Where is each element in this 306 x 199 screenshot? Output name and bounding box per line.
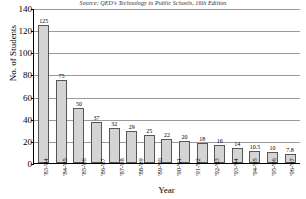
bar-value-label: 29 (129, 124, 135, 130)
bar[interactable] (126, 131, 137, 163)
y-axis-tick-label: 40 (6, 115, 32, 124)
bar-value-label: 10.5 (250, 144, 261, 150)
bar-value-label: 18 (199, 136, 205, 142)
source-note: Source: QED's Technology in Public Schoo… (0, 0, 306, 7)
bar-slot: 14 (229, 9, 247, 163)
bar-slot: 37 (88, 9, 106, 163)
y-axis-tick-label: 20 (6, 137, 32, 146)
bar-value-label: 125 (39, 18, 48, 24)
bar-value-label: 32 (111, 121, 117, 127)
y-axis-tick-label: 120 (6, 27, 32, 36)
bar-slot: 20 (176, 9, 194, 163)
bar-slot: 16 (211, 9, 229, 163)
bar-chart: Source: QED's Technology in Public Schoo… (0, 0, 306, 199)
x-axis-tick-label: '84-'85 (62, 158, 69, 176)
bar-slot: 50 (70, 9, 88, 163)
x-axis-tick-label: '83-'84 (43, 158, 50, 176)
bar-value-label: 37 (94, 115, 100, 121)
bar[interactable] (38, 25, 49, 163)
bar-slot: 29 (123, 9, 141, 163)
x-axis-tick-label: '85-'86 (81, 158, 88, 176)
bar[interactable] (73, 108, 84, 163)
bar-slot: 25 (141, 9, 159, 163)
bar-value-label: 22 (164, 132, 170, 138)
x-axis-tick-label: '94-'95 (252, 158, 259, 176)
x-axis-tick-label: '88-'89 (138, 158, 145, 176)
bar-value-label: 75 (58, 73, 64, 79)
x-axis-tick-label: '96-'97 (289, 158, 296, 176)
x-axis-title: Year (33, 185, 300, 195)
y-axis-tick-label: 140 (6, 5, 32, 14)
x-axis-tick-label: '93-'94 (233, 158, 240, 176)
bar-value-label: 20 (182, 134, 188, 140)
x-axis-tick-label: '87-'88 (119, 158, 126, 176)
x-axis-tick-label: '91-'92 (195, 158, 202, 176)
bar-value-label: 25 (146, 128, 152, 134)
bar-slot: 125 (35, 9, 53, 163)
x-axis-tick-label: '89-'90 (157, 158, 164, 176)
bar-value-label: 50 (76, 101, 82, 107)
y-axis-tick-label: 0 (6, 160, 32, 169)
plot-area: 125755037322925222018161410.5107.8 (33, 9, 300, 164)
bar-slot: 75 (53, 9, 71, 163)
bar-value-label: 14 (234, 141, 240, 147)
bar[interactable] (56, 80, 67, 163)
bar-slot: 10 (264, 9, 282, 163)
bar-value-label: 7.8 (286, 147, 294, 153)
bar[interactable] (144, 135, 155, 163)
x-axis-tick-label: '92-'93 (214, 158, 221, 176)
bar-slot: 10.5 (246, 9, 264, 163)
x-axis-tick-label: '95-'96 (271, 158, 278, 176)
bar-slot: 32 (105, 9, 123, 163)
bar-value-label: 10 (270, 145, 276, 151)
bar-slot: 7.8 (281, 9, 299, 163)
x-axis-tick-label: '90-'91 (176, 158, 183, 176)
y-axis-tick-label: 80 (6, 71, 32, 80)
y-axis-tick-label: 60 (6, 93, 32, 102)
bar-slot: 18 (193, 9, 211, 163)
x-axis-tick-label: '86-'87 (100, 158, 107, 176)
y-axis-tick-label: 100 (6, 49, 32, 58)
bar-slot: 22 (158, 9, 176, 163)
bar-series: 125755037322925222018161410.5107.8 (34, 9, 300, 163)
bar-value-label: 16 (217, 138, 223, 144)
